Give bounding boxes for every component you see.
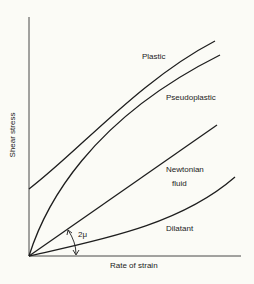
diagram-canvas [0,0,254,284]
pseudoplastic-label: Pseudoplastic [166,94,216,102]
dilatant-label: Dilatant [166,225,193,233]
fluid-label: fluid [172,180,187,188]
x-axis-label: Rate of strain [110,262,158,270]
angle-arc [68,230,76,254]
newtonian-fluid-line [29,125,217,256]
y-axis-label: Shear stress [9,113,17,158]
plastic-label: Plastic [142,53,166,61]
dilatant-curve [29,177,235,256]
angle-label: 2μ [78,231,87,239]
rheology-diagram: Plastic Pseudoplastic Newtonian fluid Di… [0,0,254,284]
newtonian-label: Newtonian [166,166,204,174]
